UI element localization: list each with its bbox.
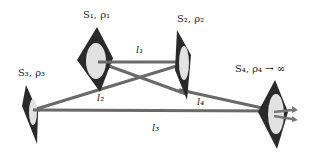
surface-s3: [22, 85, 40, 144]
surface-s1: [77, 27, 113, 92]
edge-l3: [33, 110, 276, 111]
surface-s4: [258, 80, 298, 149]
radiosity-diagram: [0, 0, 315, 157]
label-s2: S₂, ρ₂: [177, 14, 204, 24]
label-l4: l₄: [197, 97, 204, 107]
label-l2: l₂: [97, 93, 104, 103]
label-s3: S₃, ρ₃: [18, 68, 45, 78]
label-s4: S₄, ρ₄ → ∞: [235, 64, 285, 74]
label-s1: S₁, ρ₁: [83, 10, 110, 20]
label-l1: l₁: [136, 45, 143, 55]
label-l3: l₃: [152, 123, 159, 133]
